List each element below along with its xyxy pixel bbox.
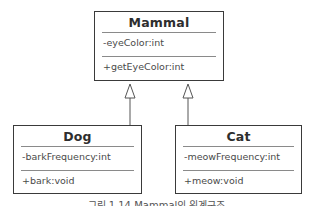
class-box-mammal: Mammal -eyeColor:int +getEyeColor:int	[94, 11, 224, 81]
class-name: Cat	[176, 129, 301, 144]
divider	[102, 56, 216, 57]
class-name: Mammal	[95, 15, 223, 30]
class-method: +getEyeColor:int	[103, 61, 184, 72]
class-box-cat: Cat -meowFrequency:int +meow:void	[175, 125, 302, 194]
class-attribute: -barkFrequency:int	[22, 151, 111, 162]
class-name: Dog	[14, 129, 141, 144]
divider	[102, 32, 216, 33]
figure-caption: 그림 1.14 Mammal의 위계구조	[0, 197, 313, 206]
class-method: +bark:void	[22, 175, 75, 186]
divider	[183, 146, 294, 147]
class-attribute: -eyeColor:int	[103, 37, 164, 48]
divider	[183, 170, 294, 171]
hollow-triangle-arrow-icon	[183, 84, 193, 98]
class-attribute: -meowFrequency:int	[184, 151, 280, 162]
divider	[21, 146, 134, 147]
divider	[21, 170, 134, 171]
class-method: +meow:void	[184, 175, 243, 186]
class-box-dog: Dog -barkFrequency:int +bark:void	[13, 125, 142, 194]
hollow-triangle-arrow-icon	[125, 84, 135, 98]
